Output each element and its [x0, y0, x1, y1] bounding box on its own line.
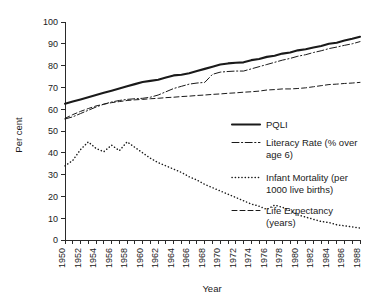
- y-tick-label: 20: [48, 192, 58, 202]
- x-tick-label: 1984: [321, 248, 331, 268]
- y-tick-label: 0: [53, 235, 58, 245]
- chart-legend: PQLILiteracy Rate (% overage 6)Infant Mo…: [232, 119, 357, 228]
- x-tick-label: 1970: [212, 248, 222, 268]
- x-tick-label: 1978: [274, 248, 284, 268]
- legend-label-2: Infant Mortality (per: [266, 172, 348, 183]
- x-tick-label: 1960: [135, 248, 145, 268]
- x-tick-label: 1980: [290, 248, 300, 268]
- x-tick-label: 1972: [228, 248, 238, 268]
- y-tick-label: 90: [48, 39, 58, 49]
- x-tick-label: 1950: [57, 248, 67, 268]
- x-tick-label: 1956: [104, 248, 114, 268]
- series-line-1: [65, 42, 360, 119]
- x-tick-label: 1954: [88, 248, 98, 268]
- y-tick-label: 30: [48, 170, 58, 180]
- data-series-group: [65, 37, 360, 228]
- y-tick-label: 80: [48, 61, 58, 71]
- x-tick-label: 1964: [166, 248, 176, 268]
- series-line-3: [65, 82, 360, 118]
- x-tick-label: 1968: [197, 248, 207, 268]
- x-tick-label: 1986: [336, 248, 346, 268]
- legend-label-cont-2: 1000 live births): [266, 184, 333, 195]
- x-axis: 1950195219541956195819601962196419661968…: [57, 240, 362, 268]
- chart-container: 0102030405060708090100 19501952195419561…: [0, 0, 385, 297]
- y-tick-label: 50: [48, 126, 58, 136]
- legend-label-cont-1: age 6): [266, 149, 293, 160]
- legend-label-3: Life Expectancy: [266, 205, 333, 216]
- x-tick-label: 1974: [243, 248, 253, 268]
- y-tick-label: 70: [48, 83, 58, 93]
- y-tick-label: 40: [48, 148, 58, 158]
- x-tick-label: 1982: [305, 248, 315, 268]
- y-axis-title: Per cent: [13, 117, 24, 153]
- series-line-0: [65, 37, 360, 104]
- y-tick-label: 10: [48, 214, 58, 224]
- y-axis: 0102030405060708090100: [43, 17, 65, 245]
- legend-label-1: Literacy Rate (% over: [266, 137, 357, 148]
- legend-label-cont-3: (years): [266, 217, 296, 228]
- x-tick-label: 1976: [259, 248, 269, 268]
- x-tick-label: 1962: [150, 248, 160, 268]
- y-tick-label: 60: [48, 105, 58, 115]
- legend-label-0: PQLI: [266, 119, 288, 130]
- x-axis-title: Year: [202, 283, 221, 294]
- x-tick-label: 1966: [181, 248, 191, 268]
- line-chart-svg: 0102030405060708090100 19501952195419561…: [0, 0, 385, 297]
- y-tick-label: 100: [43, 17, 58, 27]
- x-tick-label: 1988: [352, 248, 362, 268]
- x-tick-label: 1952: [73, 248, 83, 268]
- x-tick-label: 1958: [119, 248, 129, 268]
